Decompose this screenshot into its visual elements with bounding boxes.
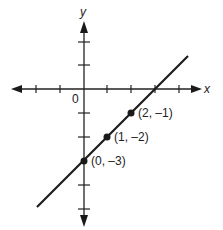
x-axis-label: x — [203, 82, 211, 96]
y-axis-up-arrow-icon — [80, 21, 88, 33]
x-axis-left-arrow-icon — [11, 85, 22, 93]
point-label: (2, –1) — [138, 106, 173, 120]
point-1-neg2: (1, –2) — [104, 130, 149, 144]
plotted-line — [37, 56, 188, 207]
coordinate-graph: x y 0 (2, –1) (1, –2) (0, –3) — [0, 0, 223, 230]
y-axis-label: y — [79, 5, 87, 19]
point-label: (1, –2) — [114, 130, 149, 144]
y-axis: y — [78, 5, 90, 227]
point-2-neg1: (2, –1) — [128, 106, 173, 120]
x-axis: x — [11, 82, 211, 96]
y-axis-down-arrow-icon — [80, 215, 88, 227]
origin-label: 0 — [72, 92, 79, 106]
point-label: (0, –3) — [91, 154, 126, 168]
x-axis-right-arrow-icon — [191, 85, 202, 93]
